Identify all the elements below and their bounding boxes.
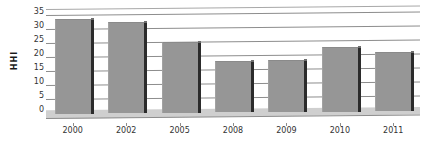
y-axis-tick-30: 30 (34, 20, 44, 29)
y-axis-tick-25: 25 (34, 34, 44, 43)
x-tick-mark-2000 (73, 123, 74, 126)
bar-fill-2000 (55, 19, 92, 114)
bar-side-face-2008 (251, 61, 254, 113)
x-tick-mark-2011 (393, 123, 394, 126)
bar-side-face-2002 (144, 22, 147, 113)
y-axis-tick-10: 10 (34, 76, 44, 85)
x-tick-mark-2005 (180, 123, 181, 126)
bar-fill-2002 (108, 22, 145, 113)
x-tick-mark-2009 (286, 123, 287, 126)
y-axis-tick-35: 35 (34, 6, 44, 15)
bar-fill-2009 (268, 60, 305, 112)
bar-side-face-2005 (198, 42, 201, 113)
y-axis-tick-20: 20 (34, 48, 44, 57)
y-axis-tick-5: 5 (39, 90, 44, 99)
y-axis-tick-labels: 05101520253035 (26, 10, 44, 118)
bar-side-face-2011 (411, 52, 414, 111)
bar-fill-2011 (375, 52, 412, 111)
plot-area (46, 10, 420, 118)
bar-side-face-2010 (358, 47, 361, 111)
x-axis-tick-2011: 2011 (383, 126, 403, 135)
x-tick-mark-2002 (126, 123, 127, 126)
bar-top-face-2010 (358, 46, 361, 48)
bar-top-face-2000 (91, 18, 94, 20)
bar-fill-2010 (322, 47, 359, 111)
x-axis-tick-2008: 2008 (223, 126, 243, 135)
bar-side-face-2009 (304, 60, 307, 112)
y-axis-title-label: HHI (11, 50, 20, 69)
x-axis-tick-2000: 2000 (63, 126, 83, 135)
x-axis-tick-2002: 2002 (116, 126, 136, 135)
y-axis-tick-0: 0 (39, 105, 44, 114)
bar-chart: HHI 05101520253035 200020022005200820092… (0, 0, 428, 149)
bar-2011 (375, 53, 411, 111)
bar-2008 (215, 62, 251, 113)
bar-2009 (268, 61, 304, 112)
bar-2010 (322, 48, 358, 111)
bar-fill-2008 (215, 61, 252, 113)
bar-top-face-2005 (198, 41, 201, 43)
x-axis-tick-2009: 2009 (276, 126, 296, 135)
bar-2000 (55, 20, 91, 114)
x-axis-tick-2005: 2005 (169, 126, 189, 135)
bar-top-face-2011 (411, 51, 414, 53)
bar-top-face-2002 (144, 21, 147, 23)
x-tick-mark-2008 (233, 123, 234, 126)
x-axis-tick-2010: 2010 (330, 126, 350, 135)
bar-2005 (162, 43, 198, 113)
bar-top-face-2009 (304, 59, 307, 61)
bars-layer (46, 10, 420, 118)
y-axis-tick-15: 15 (34, 62, 44, 71)
bar-side-face-2000 (91, 19, 94, 114)
bar-2002 (108, 23, 144, 113)
x-tick-mark-2010 (340, 123, 341, 126)
bar-top-face-2008 (251, 60, 254, 62)
bar-fill-2005 (162, 42, 199, 113)
x-axis-tick-labels: 2000200220052008200920102011 (46, 126, 420, 146)
